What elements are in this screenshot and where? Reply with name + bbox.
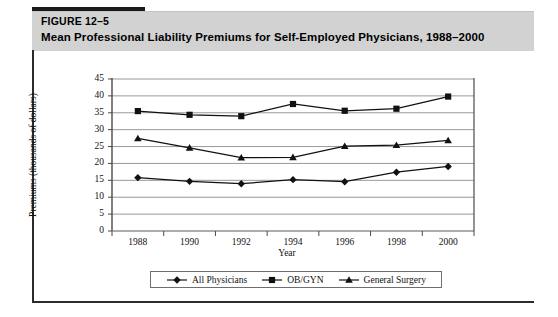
legend-item: OB/GYN [261,275,323,285]
legend-marker-diamond-icon [166,275,188,285]
y-tick-label: 35 [86,107,104,117]
data-series [134,163,452,188]
data-point-marker [269,276,275,282]
legend-item-label: OB/GYN [287,275,323,285]
y-tick-label: 5 [86,208,104,218]
y-tick-label: 25 [86,141,104,151]
y-tick-label: 0 [86,225,104,235]
x-tick-label: 1998 [376,237,416,247]
data-point-marker [342,108,348,114]
y-tick-label: 20 [86,157,104,167]
data-point-marker [445,93,451,99]
data-point-marker [173,276,180,283]
y-tick-label: 40 [86,90,104,100]
legend-item: All Physicians [166,275,247,285]
y-tick-label: 30 [86,124,104,134]
data-point-marker [238,113,244,119]
x-axis-tick-marks [112,231,474,236]
legend-item-label: General Surgery [364,275,426,285]
legend-marker-square-icon [261,275,283,285]
x-tick-label: 1992 [221,237,261,247]
y-tick-label: 15 [86,174,104,184]
data-point-marker [444,137,452,144]
data-point-marker [134,135,142,142]
data-point-marker [289,176,296,183]
chart-legend: All PhysiciansOB/GYNGeneral Surgery [150,271,442,288]
data-point-marker [393,169,400,176]
data-point-marker [341,178,348,185]
data-point-marker [135,108,141,114]
data-point-marker [186,112,192,118]
y-tick-label: 10 [86,191,104,201]
data-series-group [134,93,452,187]
figure-container: FIGURE 12–5 Mean Professional Liability … [0,0,558,317]
y-axis-title: Premiums (thousands of dollars) [28,75,38,235]
legend-marker-triangle-icon [338,275,360,285]
x-tick-label: 1988 [118,237,158,247]
data-series [134,135,452,161]
legend-item: General Surgery [338,275,426,285]
x-tick-label: 1994 [273,237,313,247]
x-tick-label: 1996 [325,237,365,247]
data-point-marker [238,180,245,187]
data-series [135,93,451,119]
data-point-marker [290,101,296,107]
data-point-marker [393,106,399,112]
x-tick-label: 2000 [428,237,468,247]
x-tick-label: 1990 [170,237,210,247]
x-axis-title: Year [265,248,309,258]
data-point-marker [186,178,193,185]
line-chart [0,0,558,317]
legend-item-label: All Physicians [192,275,247,285]
y-tick-label: 45 [86,73,104,83]
